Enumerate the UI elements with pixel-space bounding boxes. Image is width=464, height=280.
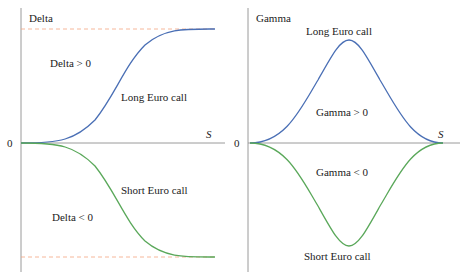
delta-chart: Delta 0 S Delta > 0 Long Euro call Short… — [7, 8, 225, 272]
gamma-chart: Gamma 0 S Long Euro call Gamma > 0 Gamma… — [234, 8, 460, 272]
delta-short-curve — [21, 143, 215, 257]
delta-negative-label: Delta < 0 — [52, 211, 94, 223]
delta-short-label: Short Euro call — [121, 184, 188, 196]
greeks-figure: Delta 0 S Delta > 0 Long Euro call Short… — [0, 0, 464, 280]
delta-long-label: Long Euro call — [121, 91, 187, 103]
gamma-positive-label: Gamma > 0 — [316, 106, 369, 118]
delta-s-label: S — [206, 128, 212, 140]
delta-positive-label: Delta > 0 — [50, 57, 92, 69]
gamma-short-curve — [250, 143, 443, 246]
delta-long-curve — [21, 29, 215, 143]
gamma-zero-label: 0 — [234, 137, 240, 149]
delta-zero-label: 0 — [7, 137, 13, 149]
delta-title: Delta — [29, 12, 53, 24]
gamma-negative-label: Gamma < 0 — [316, 166, 369, 178]
gamma-s-label: S — [438, 128, 444, 140]
gamma-title: Gamma — [256, 12, 291, 24]
gamma-long-label: Long Euro call — [306, 25, 372, 37]
gamma-short-label: Short Euro call — [304, 250, 371, 262]
gamma-long-curve — [250, 40, 443, 143]
